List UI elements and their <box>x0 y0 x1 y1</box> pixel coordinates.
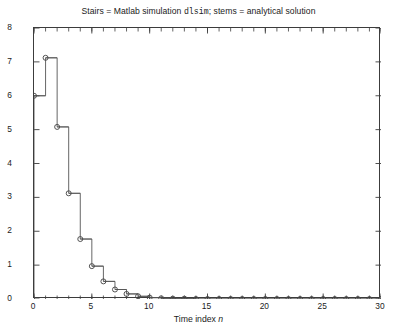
y-tick-label: 4 <box>0 158 12 168</box>
x-axis-title-italic: n <box>218 314 223 324</box>
x-tick-label: 0 <box>18 301 48 311</box>
plot-area <box>33 27 380 298</box>
axis-major-ticks <box>34 28 381 299</box>
y-tick-label: 2 <box>0 225 12 235</box>
y-tick-label: 0 <box>0 293 12 303</box>
plot-svg <box>34 28 381 299</box>
figure-canvas: Stairs = Matlab simulation dlsim; stems … <box>0 0 397 336</box>
x-tick-label: 5 <box>76 301 106 311</box>
x-axis-title-pre: Time index <box>174 314 219 324</box>
y-tick-label: 7 <box>0 56 12 66</box>
y-tick-label: 3 <box>0 191 12 201</box>
x-axis-title: Time index n <box>0 314 397 324</box>
chart-title: Stairs = Matlab simulation dlsim; stems … <box>0 6 397 16</box>
stairs-series-path <box>34 58 381 299</box>
x-tick-label: 15 <box>192 301 222 311</box>
stems-series <box>34 55 381 299</box>
y-tick-label: 8 <box>0 22 12 32</box>
x-minor-ticks <box>34 28 381 299</box>
chart-title-code: dlsim <box>184 7 209 16</box>
y-tick-label: 1 <box>0 259 12 269</box>
x-tick-label: 10 <box>134 301 164 311</box>
x-tick-label: 30 <box>365 301 395 311</box>
x-tick-label: 20 <box>249 301 279 311</box>
x-tick-label: 25 <box>307 301 337 311</box>
y-tick-label: 6 <box>0 90 12 100</box>
y-tick-label: 5 <box>0 124 12 134</box>
chart-title-pre: Stairs = Matlab simulation <box>82 6 184 16</box>
chart-title-post: ; stems = analytical solution <box>209 6 316 16</box>
